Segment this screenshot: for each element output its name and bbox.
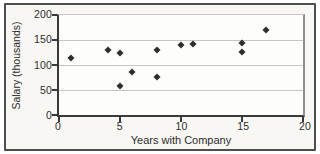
data-point-marker xyxy=(104,46,111,53)
data-point-marker xyxy=(177,41,184,48)
data-point-marker xyxy=(116,82,123,89)
y-tick-labels: 050100150200 xyxy=(18,14,52,115)
data-point-marker xyxy=(190,40,197,47)
y-tick-mark xyxy=(52,39,57,41)
x-tick-label: 10 xyxy=(175,121,187,132)
y-tick-label: 100 xyxy=(34,59,52,70)
x-axis-title: Years with Company xyxy=(57,134,305,146)
y-tick-label: 50 xyxy=(40,85,52,96)
plot-area xyxy=(57,14,305,117)
x-tick-labels: 05101520 xyxy=(58,121,305,132)
x-tick-label: 5 xyxy=(117,121,123,132)
gridline xyxy=(59,65,303,66)
data-point-marker xyxy=(238,48,245,55)
data-point-marker xyxy=(116,49,123,56)
y-tick-mark xyxy=(52,89,57,91)
x-tick-label: 0 xyxy=(55,121,61,132)
gridline xyxy=(59,90,303,91)
y-tick-mark xyxy=(52,114,57,116)
data-point-marker xyxy=(153,46,160,53)
y-tick-label: 200 xyxy=(34,9,52,20)
y-tick-mark xyxy=(52,14,57,16)
scatter-plot-figure: Salary (thousands) 050100150200 05101520… xyxy=(0,0,320,154)
y-tick-mark xyxy=(52,64,57,66)
y-tick-label: 150 xyxy=(34,34,52,45)
x-tick-label: 20 xyxy=(299,121,311,132)
data-point-marker xyxy=(263,26,270,33)
y-tick-label: 0 xyxy=(46,110,52,121)
x-tick-label: 15 xyxy=(237,121,249,132)
data-point-marker xyxy=(153,73,160,80)
data-point-marker xyxy=(68,54,75,61)
data-point-marker xyxy=(129,68,136,75)
